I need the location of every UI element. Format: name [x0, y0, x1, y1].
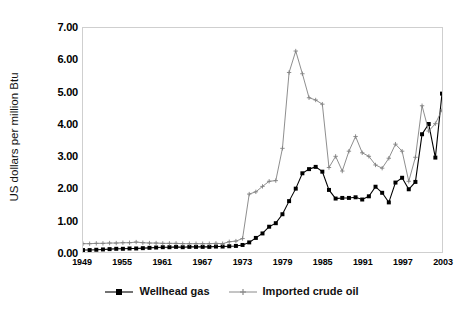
data-point-marker — [134, 240, 138, 244]
y-axis-label: US dollars per million Btu — [2, 20, 26, 254]
data-point-marker — [307, 96, 311, 100]
data-point-marker — [294, 49, 298, 53]
data-point-marker — [167, 241, 171, 245]
legend-item-wellhead-gas: Wellhead gas — [104, 286, 209, 297]
data-point-marker — [347, 196, 351, 200]
data-point-marker — [147, 246, 151, 250]
y-axis-tick-label: 7.00 — [36, 21, 78, 33]
data-point-marker — [101, 247, 105, 251]
data-point-marker — [380, 191, 384, 195]
data-point-marker — [161, 245, 165, 249]
data-point-marker — [433, 156, 437, 160]
data-point-marker — [314, 165, 318, 169]
chart-legend: Wellhead gas Imported crude oil — [0, 286, 463, 297]
data-point-marker — [107, 241, 111, 245]
plot-canvas — [83, 28, 442, 252]
data-point-marker — [247, 192, 251, 196]
data-point-marker — [181, 242, 185, 246]
data-point-marker — [360, 198, 364, 202]
data-point-marker — [141, 241, 145, 245]
data-point-marker — [413, 155, 417, 159]
data-point-marker — [407, 179, 411, 183]
chart-figure: US dollars per million Btu 0.001.002.003… — [0, 0, 463, 313]
data-point-marker — [354, 195, 358, 199]
x-axis-ticks: 1949195519611967197319791985199119972003 — [0, 257, 463, 271]
data-point-marker — [127, 241, 131, 245]
data-point-marker — [313, 98, 317, 102]
data-point-marker — [287, 199, 291, 203]
data-point-marker — [420, 104, 424, 108]
x-axis-tick-label: 1949 — [72, 257, 92, 267]
data-point-marker — [340, 196, 344, 200]
series-imported-crude-oil — [83, 49, 442, 246]
data-point-marker — [141, 246, 145, 250]
data-point-marker — [88, 248, 92, 252]
data-point-marker — [227, 244, 231, 248]
series-line — [83, 94, 442, 250]
data-point-marker — [83, 248, 85, 252]
x-axis-tick-label: 1973 — [233, 257, 253, 267]
legend-marker-wellhead-gas — [104, 287, 134, 297]
data-point-marker — [247, 240, 251, 244]
y-axis-tick-label: 2.00 — [36, 182, 78, 194]
x-axis-tick-label: 1979 — [273, 257, 293, 267]
x-axis-tick-label: 1997 — [393, 257, 413, 267]
data-point-marker — [167, 245, 171, 249]
data-point-marker — [413, 180, 417, 184]
x-axis-tick-label: 1961 — [152, 257, 172, 267]
data-point-marker — [374, 185, 378, 189]
legend-item-imported-crude-oil: Imported crude oil — [228, 286, 359, 297]
data-point-marker — [261, 231, 265, 235]
data-point-marker — [294, 187, 298, 191]
series-line — [83, 51, 442, 244]
data-point-marker — [121, 247, 125, 251]
data-point-marker — [320, 170, 324, 174]
y-axis-tick-label: 4.00 — [36, 118, 78, 130]
data-point-marker — [360, 151, 364, 155]
data-point-marker — [387, 200, 391, 204]
data-point-marker — [340, 169, 344, 173]
data-point-marker — [114, 241, 118, 245]
x-axis-tick-label: 1967 — [193, 257, 213, 267]
data-point-marker — [154, 241, 158, 245]
data-point-marker — [280, 146, 284, 150]
legend-label-imported-crude-oil: Imported crude oil — [263, 286, 359, 297]
data-point-marker — [320, 102, 324, 106]
data-point-marker — [240, 236, 244, 240]
data-point-marker — [367, 194, 371, 198]
data-point-marker — [307, 167, 311, 171]
y-axis-tick-label: 3.00 — [36, 150, 78, 162]
data-point-marker — [300, 72, 304, 76]
data-point-marker — [241, 243, 245, 247]
y-axis-tick-label: 1.00 — [36, 215, 78, 227]
data-point-marker — [174, 241, 178, 245]
x-axis-tick-label: 1985 — [313, 257, 333, 267]
data-point-marker — [134, 246, 138, 250]
data-point-marker — [161, 241, 165, 245]
y-axis-tick-label: 6.00 — [36, 53, 78, 65]
data-point-marker — [407, 187, 411, 191]
y-axis-label-text: US dollars per million Btu — [8, 72, 20, 201]
data-point-marker — [334, 197, 338, 201]
data-point-marker — [280, 212, 284, 216]
plot-area — [82, 27, 443, 253]
data-point-marker — [101, 241, 105, 245]
data-point-marker — [94, 248, 98, 252]
data-point-marker — [128, 246, 132, 250]
x-axis-tick-label: 2003 — [433, 257, 453, 267]
data-point-marker — [327, 188, 331, 192]
data-point-marker — [420, 132, 424, 136]
data-point-marker — [267, 225, 271, 229]
x-axis-tick-label: 1955 — [112, 257, 132, 267]
data-point-marker — [154, 246, 158, 250]
data-point-marker — [83, 242, 85, 246]
data-point-marker — [108, 247, 112, 251]
data-point-marker — [234, 239, 238, 243]
data-point-marker — [333, 154, 337, 158]
data-point-marker — [114, 247, 118, 251]
data-point-marker — [347, 149, 351, 153]
legend-label-wellhead-gas: Wellhead gas — [139, 286, 209, 297]
data-point-marker — [147, 241, 151, 245]
data-point-marker — [234, 244, 238, 248]
data-point-marker — [353, 134, 357, 138]
